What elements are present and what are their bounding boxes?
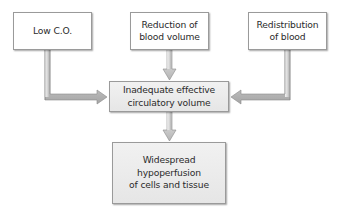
flowchart-diagram: Low C.O. Reduction of blood volume Redis… xyxy=(0,0,339,208)
arrow-inadequate-to-hypoperfusion xyxy=(163,112,176,141)
arrow-reduction-to-inadequate xyxy=(163,50,176,80)
node-label: Redistribution of blood xyxy=(257,19,319,44)
node-label: Inadequate effective circulatory volume xyxy=(123,84,215,109)
node-low-co: Low C.O. xyxy=(13,12,92,50)
arrow-low-co-to-inadequate xyxy=(45,50,107,104)
node-inadequate-circulatory-volume: Inadequate effective circulatory volume xyxy=(109,81,229,112)
node-label: Reduction of blood volume xyxy=(139,19,200,44)
arrow-redistribution-to-inadequate xyxy=(231,50,290,104)
node-label: Widespread hypoperfusion of cells and ti… xyxy=(129,154,209,192)
node-reduction-blood-volume: Reduction of blood volume xyxy=(130,12,209,50)
node-redistribution-blood: Redistribution of blood xyxy=(248,12,327,50)
node-widespread-hypoperfusion: Widespread hypoperfusion of cells and ti… xyxy=(112,142,226,204)
node-label: Low C.O. xyxy=(33,25,72,38)
